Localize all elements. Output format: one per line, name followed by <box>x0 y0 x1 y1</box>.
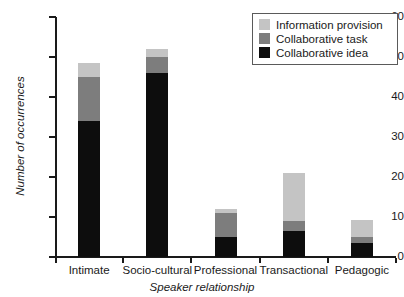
bar-segment-collaborative-task <box>215 213 237 237</box>
x-tick-label-socio-cultural: Socio-cultural <box>122 264 192 276</box>
bar-segment-information-provision <box>351 220 373 237</box>
bar-segment-collaborative-idea <box>146 73 168 257</box>
legend-item-information-provision: Information provision <box>259 18 392 31</box>
bar-segment-collaborative-task <box>283 221 305 231</box>
bar-segment-information-provision <box>215 209 237 213</box>
legend-item-collaborative-task: Collaborative task <box>259 32 392 45</box>
x-tick-mark <box>259 258 261 263</box>
bar-segment-collaborative-idea <box>351 243 373 257</box>
bar-segment-collaborative-idea <box>215 237 237 257</box>
y-axis-title: Number of occurrences <box>14 46 26 226</box>
legend-label-collaborative-idea: Collaborative idea <box>276 47 368 59</box>
legend-swatch-information-provision <box>259 19 270 30</box>
legend-swatch-collaborative-idea <box>259 47 270 58</box>
bar-segment-information-provision <box>283 173 305 221</box>
bar-intimate[interactable] <box>78 63 100 257</box>
x-tick-label-pedagogic: Pedagogic <box>335 264 389 276</box>
bar-segment-collaborative-idea <box>283 231 305 257</box>
bar-segment-information-provision <box>78 63 100 77</box>
x-tick-label-transactional: Transactional <box>259 264 328 276</box>
bar-transactional[interactable] <box>283 173 305 257</box>
x-tick-mark <box>55 258 57 263</box>
bar-pedagogic[interactable] <box>351 220 373 257</box>
x-axis-title: Speaker relationship <box>0 281 404 293</box>
bar-segment-information-provision <box>146 49 168 57</box>
legend-item-collaborative-idea: Collaborative idea <box>259 46 392 59</box>
stacked-bar-chart: 0102030405060 IntimateSocio-culturalProf… <box>0 0 404 297</box>
bar-segment-collaborative-task <box>351 237 373 243</box>
x-tick-mark <box>395 258 397 263</box>
x-tick-mark <box>122 258 124 263</box>
x-tick-mark <box>190 258 192 263</box>
legend-label-collaborative-task: Collaborative task <box>276 33 367 45</box>
x-tick-mark <box>327 258 329 263</box>
x-tick-label-intimate: Intimate <box>69 264 110 276</box>
bar-socio-cultural[interactable] <box>146 49 168 257</box>
legend-swatch-collaborative-task <box>259 33 270 44</box>
legend-label-information-provision: Information provision <box>276 19 383 31</box>
bar-segment-collaborative-idea <box>78 121 100 257</box>
bar-segment-collaborative-task <box>146 57 168 73</box>
legend: Information provision Collaborative task… <box>252 13 398 65</box>
x-tick-label-professional: Professional <box>194 264 257 276</box>
bar-professional[interactable] <box>215 209 237 257</box>
bar-segment-collaborative-task <box>78 77 100 121</box>
